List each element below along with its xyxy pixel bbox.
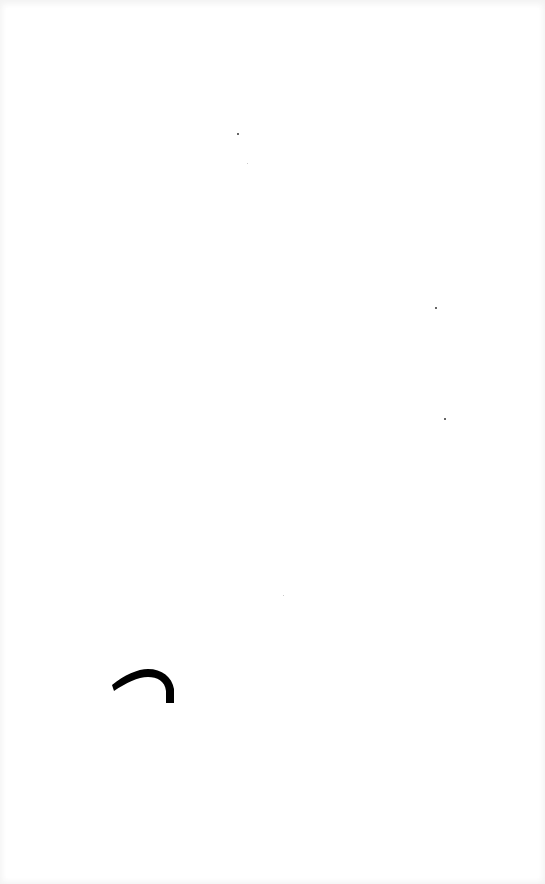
black-arc-icon [110,663,180,705]
blank-canvas [6,8,539,878]
speck-dot [237,133,239,135]
speck-dot [444,418,446,420]
speck-dot [283,595,284,596]
speck-dot [247,163,248,164]
speck-dot [435,307,437,309]
